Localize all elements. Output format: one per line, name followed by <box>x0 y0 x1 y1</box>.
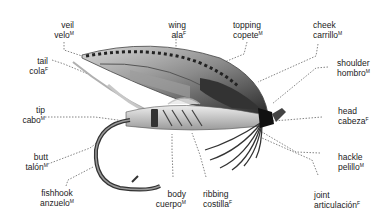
label-tail: tail colaF <box>20 57 48 76</box>
label-ribbing: ribbing costillaF <box>203 190 247 209</box>
salmon-fly-diagram: veil veloM tail colaF tip caboM butt tal… <box>0 0 391 224</box>
label-cheek: cheek carrilloM <box>313 21 353 40</box>
label-joint: joint articulaciónF <box>314 191 384 210</box>
label-wing: wing alaF <box>160 21 186 40</box>
label-veil: veil veloM <box>46 21 74 40</box>
label-tip: tip caboM <box>15 106 45 125</box>
label-shoulder: shoulder hombroM <box>337 59 387 78</box>
label-head: head cabezaF <box>338 107 384 126</box>
label-body: body cuerpoM <box>150 190 186 209</box>
fly-head <box>258 108 286 128</box>
label-topping: topping copeteM <box>233 21 273 40</box>
label-butt: butt talónM <box>12 153 48 172</box>
fishhook <box>96 120 160 190</box>
label-fishhook: fishhook anzueloM <box>34 189 80 208</box>
label-hackle: hackle pelilloM <box>338 153 384 172</box>
